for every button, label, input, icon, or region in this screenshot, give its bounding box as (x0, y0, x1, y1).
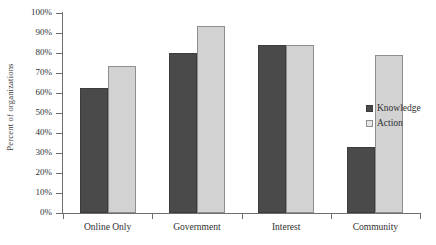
y-axis-tick (56, 113, 62, 114)
y-axis-tick (56, 13, 62, 14)
x-axis-tick (152, 214, 153, 219)
legend-label: Action (377, 118, 403, 128)
y-axis-tick (56, 93, 62, 94)
y-axis-tick-label: 0% (6, 208, 52, 217)
y-axis-tick (56, 213, 62, 214)
legend-item-knowledge[interactable]: Knowledge (366, 103, 421, 113)
legend-label: Knowledge (377, 103, 421, 113)
x-axis-category-label: Community (331, 222, 420, 233)
bar-community-knowledge (347, 147, 375, 213)
y-axis-tick-label: 70% (6, 68, 52, 77)
y-axis-tick-label: 60% (6, 88, 52, 97)
y-axis-tick (56, 73, 62, 74)
y-axis-tick-label: 50% (6, 108, 52, 117)
x-axis-tick (420, 214, 421, 219)
y-axis-tick-label: 20% (6, 168, 52, 177)
x-axis-category-label: Government (152, 222, 241, 233)
legend-item-action[interactable]: Action (366, 118, 421, 128)
legend-swatch-icon (366, 120, 373, 127)
chart-legend: KnowledgeAction (366, 103, 421, 133)
y-axis-tick-label: 40% (6, 128, 52, 137)
y-axis-tick-label: 100% (6, 8, 52, 17)
x-axis-tick (242, 214, 243, 219)
bar-interest-knowledge (258, 45, 286, 213)
bar-chart: Percent of organizations 0%10%20%30%40%5… (0, 0, 436, 245)
bar-community-action (375, 55, 403, 213)
y-axis-tick (56, 173, 62, 174)
y-axis-tick-label: 90% (6, 28, 52, 37)
bar-government-knowledge (169, 53, 197, 213)
x-axis-tick (63, 214, 64, 219)
y-axis-tick (56, 33, 62, 34)
y-axis-tick-label: 30% (6, 148, 52, 157)
bar-online-only-knowledge (80, 88, 108, 213)
x-axis-category-label: Interest (242, 222, 331, 233)
bar-government-action (197, 26, 225, 213)
y-axis-tick (56, 133, 62, 134)
y-axis-tick (56, 193, 62, 194)
y-axis-tick (56, 53, 62, 54)
y-axis-tick (56, 153, 62, 154)
bar-interest-action (286, 45, 314, 213)
x-axis-category-label: Online Only (63, 222, 152, 233)
y-axis-tick-label: 80% (6, 48, 52, 57)
legend-swatch-icon (366, 105, 373, 112)
y-axis-tick-label: 10% (6, 188, 52, 197)
x-axis-tick (331, 214, 332, 219)
bar-online-only-action (108, 66, 136, 213)
